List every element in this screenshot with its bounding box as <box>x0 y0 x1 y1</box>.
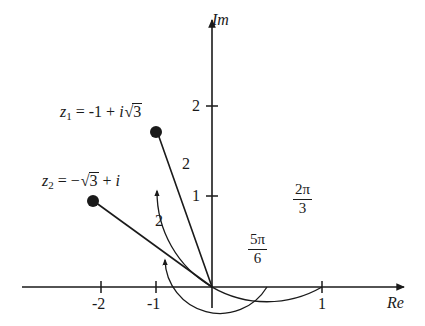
imaginary-axis-label: Im <box>212 12 229 28</box>
fraction-denominator: 3 <box>292 200 313 217</box>
complex-plane-figure: Im Re -2 -1 1 1 2 z1 = -1 + i√3 z2 = −√3… <box>0 0 425 326</box>
z2-plus: + <box>103 172 112 189</box>
z1-real-part: -1 <box>89 103 102 120</box>
fraction-numerator: 5π <box>247 232 268 249</box>
fraction-denominator: 6 <box>247 250 268 267</box>
y-tick-label-1: 1 <box>192 188 200 204</box>
x-tick-label--2: -2 <box>92 296 105 312</box>
x-tick-label--1: -1 <box>147 296 160 312</box>
y-tick-label-2: 2 <box>192 98 200 114</box>
fraction-2pi-over-3: 2π 3 <box>292 182 313 217</box>
argument-label-z1: 2π 3 <box>292 182 313 217</box>
modulus-label-z2: 2 <box>155 213 163 229</box>
z2-radical: √3 <box>80 172 99 189</box>
z1-radical: √3 <box>124 103 143 120</box>
modulus-label-z1: 2 <box>182 156 190 172</box>
point-label-z1: z1 = -1 + i√3 <box>60 103 142 122</box>
z2-minus: − <box>71 172 80 189</box>
z2-subscript: 2 <box>48 179 54 191</box>
z1-radicand: 3 <box>132 103 142 120</box>
point-label-z2: z2 = −√3 + i <box>42 172 120 191</box>
fraction-5pi-over-6: 5π 6 <box>247 232 268 267</box>
z1-subscript: 1 <box>66 110 72 122</box>
z1-plus: + <box>106 103 115 120</box>
argument-label-z2: 5π 6 <box>247 232 268 267</box>
diagram-canvas <box>0 0 425 326</box>
z2-imaginary-unit: i <box>116 172 120 189</box>
point-marker-z1 <box>150 126 162 138</box>
fraction-numerator: 2π <box>292 182 313 199</box>
z1-equals: = <box>76 103 85 120</box>
z2-equals: = <box>58 172 67 189</box>
x-tick-label-1: 1 <box>318 296 326 312</box>
z2-radicand: 3 <box>89 172 99 189</box>
real-axis-label: Re <box>387 295 404 311</box>
point-marker-z2 <box>87 195 99 207</box>
